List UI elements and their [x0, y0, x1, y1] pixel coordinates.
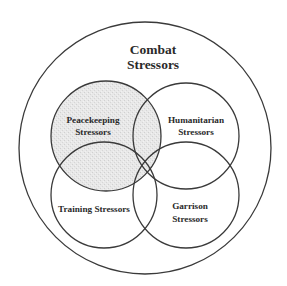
peacekeeping-label-line2: Stressors: [75, 127, 111, 137]
garrison-label-line2: Stressors: [172, 214, 208, 224]
peacekeeping-label-line1: Peacekeeping: [66, 115, 119, 125]
garrison-label-line1: Garrison: [172, 201, 208, 211]
combat-label-line1: Combat: [130, 42, 177, 57]
training-label: Training Stressors: [58, 204, 130, 214]
humanitarian-label-line1: Humanitarian: [168, 115, 224, 125]
garrison-stressors-circle: [133, 142, 239, 248]
humanitarian-label-line2: Stressors: [178, 127, 214, 137]
combat-label-line2: Stressors: [127, 57, 179, 72]
stressors-venn-diagram: Combat Stressors Peacekeeping Stressors …: [0, 0, 287, 286]
